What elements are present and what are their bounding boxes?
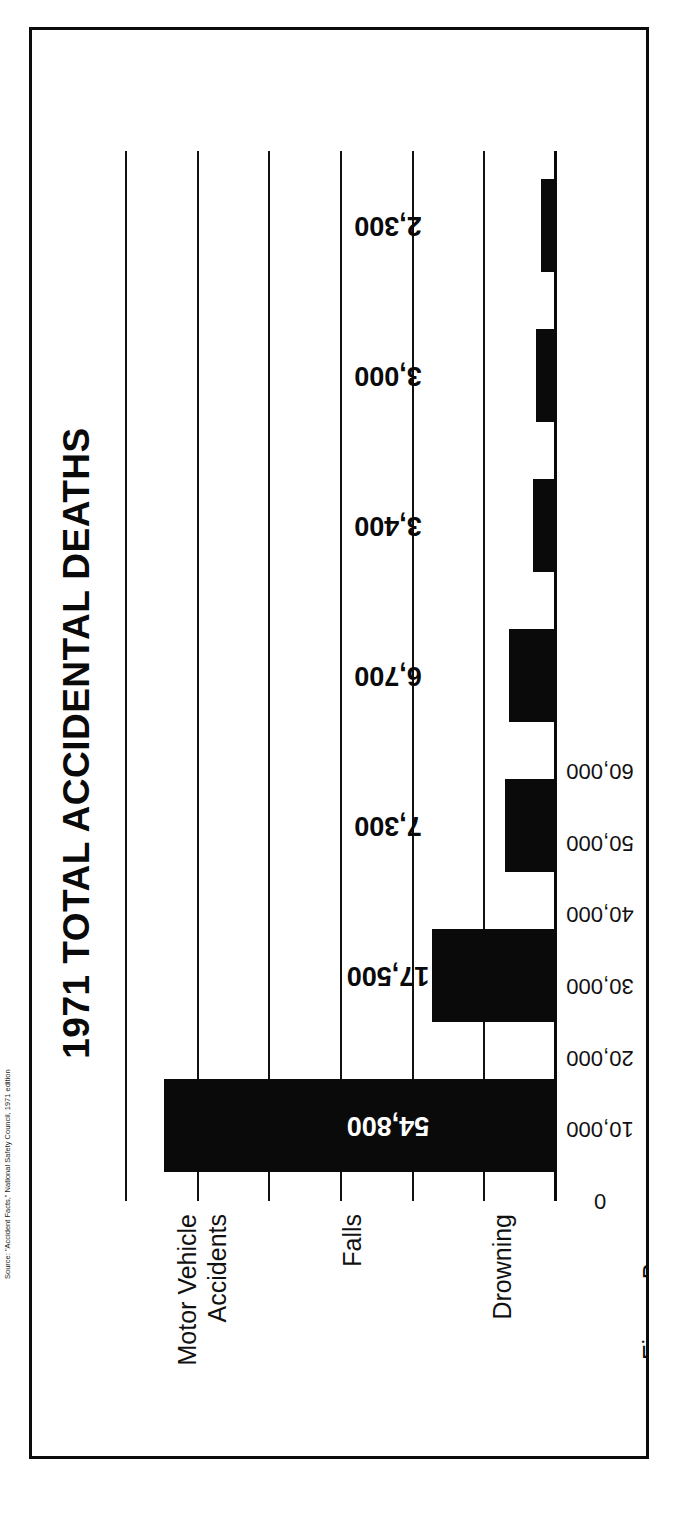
figure-page: 1971 TOTAL ACCIDENTAL DEATHS 54,80017,50… (0, 0, 675, 1515)
category-label: Drowning (488, 1214, 518, 1436)
source-note: Source: "Accident Facts," National Safet… (3, 1047, 12, 1279)
category-label-line: Falls (338, 1214, 368, 1436)
value-tick-label: 60,000 (545, 758, 646, 784)
value-tick-label: 30,000 (545, 973, 646, 999)
plot-area: 54,80017,5007,3006,7003,4003,0002,300 (127, 151, 557, 1201)
chart-stage: 1971 TOTAL ACCIDENTAL DEATHS 54,80017,50… (32, 30, 646, 1456)
bar (541, 180, 557, 273)
bar (505, 780, 557, 873)
bar-slot: 7,300 (127, 780, 557, 873)
rotated-figure-wrapper: 1971 TOTAL ACCIDENTAL DEATHS 54,80017,50… (32, 30, 646, 1456)
category-label-line: Motor Vehicle (173, 1214, 203, 1436)
bar-slot: 3,000 (127, 330, 557, 423)
bar (432, 930, 557, 1023)
bar-slot: 2,300 (127, 180, 557, 273)
value-tick-label: 10,000 (545, 1116, 646, 1142)
bar (536, 330, 558, 423)
value-tick-label: 40,000 (545, 901, 646, 927)
category-label-line: Fires—Burns (638, 1214, 647, 1436)
bar-slot: 17,500 (127, 930, 557, 1023)
value-tick-label: 50,000 (545, 830, 646, 856)
chart-title: 1971 TOTAL ACCIDENTAL DEATHS (56, 30, 98, 1456)
bar-value-label: 6,700 (342, 659, 435, 693)
bar-value-label: 7,300 (342, 809, 435, 843)
value-tick-label: 0 (545, 1188, 646, 1214)
category-label: Falls (338, 1214, 368, 1436)
bar-slot: 3,400 (127, 480, 557, 573)
bar (533, 480, 557, 573)
bar-slot: 6,700 (127, 630, 557, 723)
bar-value-label: 17,500 (342, 959, 435, 993)
category-label-line: Drowning (488, 1214, 518, 1436)
category-label: Fires—Burns (638, 1214, 647, 1436)
bar-value-label: 2,300 (342, 209, 435, 243)
bar-slot: 54,800 (127, 1080, 557, 1173)
bar-value-label: 54,800 (342, 1109, 435, 1143)
bar-value-label: 3,000 (342, 359, 435, 393)
bars-group: 54,80017,5007,3006,7003,4003,0002,300 (127, 151, 557, 1201)
category-label: Motor VehicleAccidents (173, 1214, 232, 1436)
bar (509, 630, 557, 723)
value-tick-label: 20,000 (545, 1045, 646, 1071)
category-label-line: Accidents (203, 1214, 233, 1436)
bar-value-label: 3,400 (342, 509, 435, 543)
